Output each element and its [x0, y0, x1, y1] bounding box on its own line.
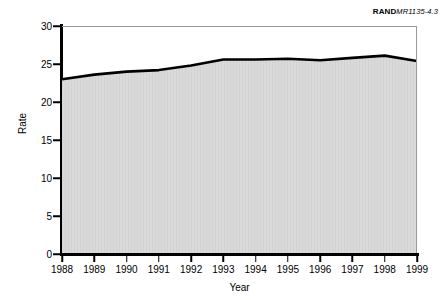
area-chart-svg: [62, 26, 417, 254]
x-tick-label: 1995: [277, 264, 299, 275]
x-tick-mark: [255, 256, 257, 262]
x-tick-mark: [223, 256, 225, 262]
x-axis-tick-labels: 1988198919901991199219931994199519961997…: [62, 264, 417, 278]
rand-brand-label: RAND: [373, 7, 397, 16]
x-tick-label: 1997: [341, 264, 363, 275]
figure-identifier: RANDMR1135-4.3: [373, 7, 438, 16]
x-tick-label: 1992: [180, 264, 202, 275]
x-tick-label: 1988: [51, 264, 73, 275]
x-tick-label: 1991: [148, 264, 170, 275]
y-tick-label: 30: [41, 21, 52, 32]
x-tick-mark: [384, 256, 386, 262]
x-tick-label: 1999: [406, 264, 428, 275]
y-tick-label: 15: [41, 135, 52, 146]
x-tick-mark: [158, 256, 160, 262]
x-axis-tick-marks: [62, 256, 417, 263]
chart-plot-area: [62, 26, 417, 254]
x-tick-label: 1998: [374, 264, 396, 275]
x-tick-mark: [61, 256, 63, 262]
x-tick-mark: [190, 256, 192, 262]
y-tick-label: 25: [41, 59, 52, 70]
x-tick-label: 1993: [212, 264, 234, 275]
series-area-fill: [62, 56, 417, 254]
y-axis-tick-labels: 051015202530: [28, 26, 52, 254]
x-tick-mark: [319, 256, 321, 262]
x-tick-mark: [416, 256, 418, 262]
x-tick-mark: [126, 256, 128, 262]
x-tick-mark: [352, 256, 354, 262]
x-tick-label: 1989: [83, 264, 105, 275]
figure-document-number: MR1135-4.3: [396, 7, 438, 16]
x-axis-title: Year: [62, 282, 417, 293]
x-tick-label: 1990: [115, 264, 137, 275]
y-tick-label: 20: [41, 97, 52, 108]
x-tick-mark: [94, 256, 96, 262]
x-tick-label: 1996: [309, 264, 331, 275]
x-tick-mark: [287, 256, 289, 262]
x-tick-label: 1994: [245, 264, 267, 275]
y-tick-label: 10: [41, 173, 52, 184]
y-axis-title: Rate: [17, 94, 28, 154]
